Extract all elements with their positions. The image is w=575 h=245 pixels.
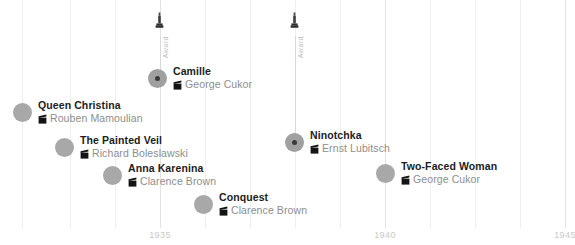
event-director-row: Clarence Brown	[128, 176, 216, 188]
award-marker: Award	[289, 12, 300, 34]
clapperboard-icon	[38, 114, 47, 124]
event-label-group: CamilleGeorge Cukor	[173, 66, 252, 91]
event-director-name: Clarence Brown	[231, 205, 307, 217]
clapperboard-icon	[173, 80, 182, 90]
event-director-row: George Cukor	[401, 174, 497, 186]
event-point[interactable]: Two-Faced WomanGeorge Cukor	[376, 161, 497, 186]
event-point[interactable]: Queen ChristinaRouben Mamoulian	[13, 100, 143, 125]
x-axis-tick-label: 1940	[374, 230, 396, 240]
event-director-name: Richard Boleslawski	[92, 148, 188, 160]
event-title: Ninotchka	[310, 130, 390, 142]
event-point[interactable]: CamilleGeorge Cukor	[148, 66, 252, 91]
gridline	[340, 0, 341, 228]
event-label-group: The Painted VeilRichard Boleslawski	[80, 135, 188, 160]
award-label: Award	[297, 36, 304, 58]
event-director-row: Ernst Lubitsch	[310, 143, 390, 155]
gridline	[475, 0, 476, 228]
event-dot[interactable]	[376, 164, 395, 183]
event-label-group: NinotchkaErnst Lubitsch	[310, 130, 390, 155]
clapperboard-icon	[219, 206, 228, 216]
x-axis-tick-label: 1945	[554, 230, 575, 240]
gridline	[385, 0, 386, 228]
clapperboard-icon	[128, 177, 137, 187]
event-point[interactable]: The Painted VeilRichard Boleslawski	[55, 135, 188, 160]
clapperboard-icon	[401, 175, 410, 185]
event-dot[interactable]	[13, 103, 32, 122]
event-dot-awarded[interactable]	[148, 69, 167, 88]
event-point[interactable]: ConquestClarence Brown	[194, 192, 307, 217]
clapperboard-icon	[310, 144, 319, 154]
event-director-row: Richard Boleslawski	[80, 148, 188, 160]
event-director-name: Clarence Brown	[140, 176, 216, 188]
event-director-row: George Cukor	[173, 79, 252, 91]
event-label-group: Queen ChristinaRouben Mamoulian	[38, 100, 143, 125]
event-point[interactable]: Anna KareninaClarence Brown	[103, 163, 216, 188]
gridline	[430, 0, 431, 228]
award-marker: Award	[154, 12, 165, 34]
award-connector-line	[295, 36, 296, 140]
event-director-name: Rouben Mamoulian	[50, 113, 143, 125]
event-point[interactable]: NinotchkaErnst Lubitsch	[285, 130, 390, 155]
event-label-group: Two-Faced WomanGeorge Cukor	[401, 161, 497, 186]
event-dot[interactable]	[55, 138, 74, 157]
event-title: Anna Karenina	[128, 163, 216, 175]
award-label: Award	[162, 36, 169, 58]
event-director-name: George Cukor	[413, 174, 480, 186]
timeline-chart: AwardAward Queen ChristinaRouben Mamouli…	[0, 0, 575, 245]
event-director-name: George Cukor	[185, 79, 252, 91]
event-title: The Painted Veil	[80, 135, 188, 147]
oscar-statuette-icon	[154, 12, 165, 34]
event-director-name: Ernst Lubitsch	[322, 143, 390, 155]
event-dot[interactable]	[103, 166, 122, 185]
oscar-statuette-icon	[289, 12, 300, 34]
event-label-group: Anna KareninaClarence Brown	[128, 163, 216, 188]
event-title: Queen Christina	[38, 100, 143, 112]
event-label-group: ConquestClarence Brown	[219, 192, 307, 217]
event-title: Two-Faced Woman	[401, 161, 497, 173]
x-axis-tick-label: 1935	[149, 230, 171, 240]
event-director-row: Clarence Brown	[219, 205, 307, 217]
gridline	[565, 0, 566, 228]
event-dot-awarded[interactable]	[285, 133, 304, 152]
event-dot[interactable]	[194, 195, 213, 214]
event-title: Conquest	[219, 192, 307, 204]
event-title: Camille	[173, 66, 252, 78]
clapperboard-icon	[80, 149, 89, 159]
gridline	[520, 0, 521, 228]
gridline	[160, 0, 161, 228]
event-director-row: Rouben Mamoulian	[38, 113, 143, 125]
